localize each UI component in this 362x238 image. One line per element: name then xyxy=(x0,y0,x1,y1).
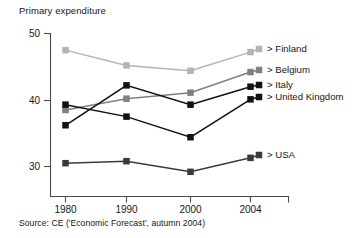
source-note: Source: CE ('Economic Forecast', autumn … xyxy=(19,218,205,228)
data-point-marker xyxy=(187,89,194,96)
data-point-marker xyxy=(123,158,130,165)
data-point-marker xyxy=(187,169,194,176)
y-tick-label-30: 30 xyxy=(29,161,41,172)
x-tick-label-2004: 2004 xyxy=(239,204,262,215)
data-point-marker xyxy=(62,160,69,167)
legend-swatch-icon xyxy=(256,46,263,53)
data-point-marker xyxy=(62,122,69,128)
data-point-marker xyxy=(187,101,194,108)
x-tick-label-1990: 1990 xyxy=(115,204,138,215)
legend-item-belgium[interactable]: > Belgium xyxy=(256,64,310,75)
line-chart-plot: 50 40 30 1980 1990 2000 2004 > Finland> … xyxy=(0,0,362,238)
y-tick-label-50: 50 xyxy=(29,28,41,39)
legend-swatch-icon xyxy=(256,152,263,159)
legend-item-label: > Belgium xyxy=(267,64,310,75)
series-line xyxy=(66,72,251,110)
data-point-marker xyxy=(247,69,254,76)
legend-item-label: > Italy xyxy=(267,79,293,90)
series-finland xyxy=(62,47,259,74)
data-point-marker xyxy=(247,96,254,103)
data-point-marker xyxy=(123,113,130,120)
data-point-marker xyxy=(62,47,69,54)
chart-figure: Primary expenditure 50 40 30 1980 1990 2… xyxy=(0,0,362,238)
series-line xyxy=(66,50,251,71)
series-layer xyxy=(62,47,259,175)
data-point-marker xyxy=(123,95,130,102)
data-point-marker xyxy=(187,134,194,141)
legend-item-italy[interactable]: > Italy xyxy=(256,79,293,90)
legend-swatch-icon xyxy=(256,82,263,89)
y-tick-label-40: 40 xyxy=(29,95,41,106)
data-point-marker xyxy=(247,49,254,56)
series-usa xyxy=(62,155,259,175)
data-point-marker xyxy=(247,155,254,162)
legend-item-finland[interactable]: > Finland xyxy=(256,43,307,54)
legend-item-label: > USA xyxy=(267,149,296,160)
series-line xyxy=(66,158,251,172)
x-tick-label-2000: 2000 xyxy=(179,204,202,215)
y-axis-ticks xyxy=(44,34,51,167)
data-point-marker xyxy=(187,67,194,74)
data-point-marker xyxy=(123,82,130,89)
legend-swatch-icon xyxy=(256,94,263,101)
legend-swatch-icon xyxy=(256,67,263,74)
series-united-kingdom xyxy=(62,96,259,140)
x-axis-ticks xyxy=(66,197,289,203)
legend-item-united-kingdom[interactable]: > United Kingdom xyxy=(256,91,344,102)
data-point-marker xyxy=(123,62,130,69)
data-point-marker xyxy=(247,83,254,90)
legend-item-label: > United Kingdom xyxy=(267,91,344,102)
series-belgium xyxy=(62,69,259,113)
legend-item-usa[interactable]: > USA xyxy=(256,149,296,160)
x-tick-label-1980: 1980 xyxy=(54,204,77,215)
chart-legend: > Finland> Belgium> Italy> United Kingdo… xyxy=(256,43,344,160)
legend-item-label: > Finland xyxy=(267,43,307,54)
data-point-marker xyxy=(62,101,69,108)
